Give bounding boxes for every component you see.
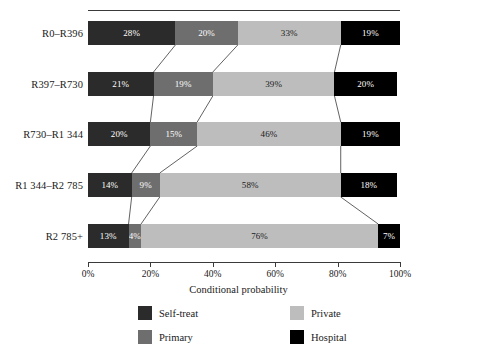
x-axis-tick-label: 100%: [389, 269, 411, 279]
segment-value-label: 58%: [242, 181, 259, 190]
segment-value-label: 20%: [111, 130, 128, 139]
segment-value-label: 33%: [281, 29, 298, 38]
x-axis-tick-label: 40%: [204, 269, 221, 279]
x-axis-tick: [213, 262, 214, 267]
bar-segment-primary[interactable]: 19%: [154, 72, 213, 96]
category-label: R730–R1 344: [23, 129, 83, 140]
bar-segment-private[interactable]: 39%: [213, 72, 335, 96]
x-axis-tick: [338, 262, 339, 267]
legend-label: Primary: [159, 332, 193, 343]
segment-value-label: 19%: [362, 29, 379, 38]
bar-track: 28%20%33%19%: [88, 21, 400, 45]
bar-segment-hospital[interactable]: 20%: [334, 72, 396, 96]
bar-segment-private[interactable]: 46%: [197, 122, 341, 146]
bar-row: R1 344–R2 78514%9%58%18%: [0, 173, 477, 197]
bar-segment-hospital[interactable]: 7%: [378, 224, 400, 248]
bar-segment-self-treat[interactable]: 20%: [88, 122, 150, 146]
category-label: R1 344–R2 785: [15, 180, 83, 191]
legend-swatch-icon: [138, 306, 152, 320]
x-axis-title: Conditional probability: [0, 284, 477, 295]
bar-track: 20%15%46%19%: [88, 122, 400, 146]
bar-track: 21%19%39%20%: [88, 72, 400, 96]
bar-segment-self-treat[interactable]: 21%: [88, 72, 154, 96]
segment-value-label: 46%: [261, 130, 278, 139]
stacked-bar-chart-figure: R0–R39628%20%33%19%R397–R73021%19%39%20%…: [0, 0, 477, 359]
x-axis-tick-label: 0%: [82, 269, 95, 279]
plot-area: R0–R39628%20%33%19%R397–R73021%19%39%20%…: [0, 0, 477, 260]
bar-row: R2 785+13%4%76%7%: [0, 224, 477, 248]
bar-row: R397–R73021%19%39%20%: [0, 72, 477, 96]
segment-value-label: 15%: [165, 130, 182, 139]
segment-value-label: 4%: [129, 232, 141, 241]
x-axis-tick: [400, 262, 401, 267]
bar-segment-hospital[interactable]: 19%: [341, 21, 400, 45]
bar-row: R0–R39628%20%33%19%: [0, 21, 477, 45]
bar-segment-self-treat[interactable]: 13%: [88, 224, 129, 248]
x-axis-tick-label: 80%: [329, 269, 346, 279]
bar-segment-self-treat[interactable]: 14%: [88, 173, 132, 197]
segment-value-label: 9%: [140, 181, 152, 190]
legend-label: Private: [311, 308, 341, 319]
bar-row: R730–R1 34420%15%46%19%: [0, 122, 477, 146]
bar-segment-self-treat[interactable]: 28%: [88, 21, 175, 45]
x-axis-tick: [88, 262, 89, 267]
x-axis-tick-label: 20%: [142, 269, 159, 279]
segment-value-label: 13%: [100, 232, 117, 241]
bar-segment-primary[interactable]: 9%: [132, 173, 160, 197]
x-axis-tick: [150, 262, 151, 267]
chart-legend: Self-treatPrivatePrimaryHospital: [138, 306, 418, 352]
bar-segment-private[interactable]: 58%: [160, 173, 341, 197]
bar-segment-hospital[interactable]: 18%: [341, 173, 397, 197]
legend-swatch-icon: [138, 330, 152, 344]
segment-value-label: 19%: [362, 130, 379, 139]
segment-value-label: 21%: [112, 80, 129, 89]
segment-value-label: 19%: [175, 80, 192, 89]
bar-track: 13%4%76%7%: [88, 224, 400, 248]
segment-value-label: 20%: [198, 29, 215, 38]
segment-value-label: 14%: [101, 181, 118, 190]
legend-item-private[interactable]: Private: [290, 306, 341, 320]
legend-label: Self-treat: [159, 308, 198, 319]
segment-value-label: 7%: [383, 232, 395, 241]
x-axis-line: [88, 262, 400, 263]
category-label: R2 785+: [46, 231, 83, 242]
bar-segment-hospital[interactable]: 19%: [341, 122, 400, 146]
x-axis-tick: [275, 262, 276, 267]
bar-segment-primary[interactable]: 4%: [129, 224, 141, 248]
bar-segment-private[interactable]: 33%: [238, 21, 341, 45]
x-axis-tick-label: 60%: [266, 269, 283, 279]
bar-track: 14%9%58%18%: [88, 173, 400, 197]
segment-value-label: 28%: [123, 29, 140, 38]
segment-value-label: 18%: [360, 181, 377, 190]
bar-segment-private[interactable]: 76%: [141, 224, 378, 248]
category-label: R0–R396: [42, 28, 83, 39]
legend-swatch-icon: [290, 306, 304, 320]
legend-item-primary[interactable]: Primary: [138, 330, 193, 344]
legend-label: Hospital: [311, 332, 347, 343]
category-label: R397–R730: [31, 79, 83, 90]
bar-segment-primary[interactable]: 15%: [150, 122, 197, 146]
legend-swatch-icon: [290, 330, 304, 344]
segment-value-label: 76%: [251, 232, 268, 241]
legend-item-self-treat[interactable]: Self-treat: [138, 306, 198, 320]
legend-item-hospital[interactable]: Hospital: [290, 330, 347, 344]
segment-value-label: 39%: [265, 80, 282, 89]
bar-segment-primary[interactable]: 20%: [175, 21, 237, 45]
segment-value-label: 20%: [357, 80, 374, 89]
